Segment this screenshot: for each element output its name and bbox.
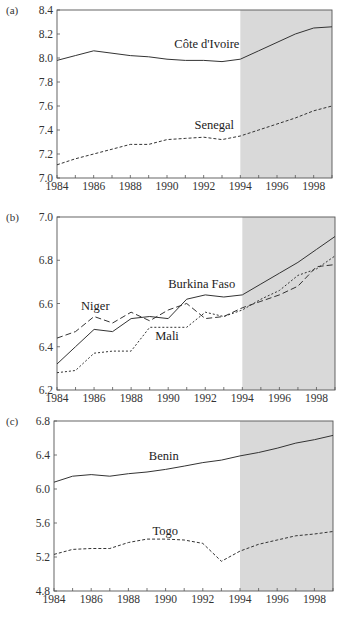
x-tick-label: 1990 [154,593,177,605]
x-tick-label: 1998 [303,593,326,605]
y-tick-label: 7.2 [39,148,54,160]
y-tick-label: 5.6 [36,517,51,529]
y-tick-label: 7.6 [39,100,54,112]
panel-label: (a) [6,4,19,17]
x-tick-label: 1996 [268,392,291,404]
y-tick-label: 6.4 [36,449,51,461]
x-tick-label: 1996 [266,593,289,605]
series-label: Niger [81,299,110,313]
shaded-region [240,421,333,591]
y-tick-label: 6.4 [39,341,54,353]
y-tick-label: 5.2 [36,551,51,563]
figure: 7.07.27.47.67.88.08.28.41984198619881990… [0,0,349,619]
x-tick-label: 1998 [302,180,325,192]
y-tick-label: 6.6 [39,298,54,310]
y-tick-label: 7.0 [39,211,54,223]
series-label: Benin [149,449,180,463]
x-tick-label: 1984 [46,392,69,404]
shaded-region [242,217,335,390]
x-tick-label: 1986 [80,593,103,605]
shaded-region [240,10,332,178]
x-tick-label: 1990 [156,180,179,192]
x-tick-label: 1988 [117,593,140,605]
panel-b: 6.26.46.66.87.01984198619881990199219941… [6,211,335,404]
x-tick-label: 1994 [229,593,252,605]
x-tick-label: 1990 [157,392,180,404]
x-tick-label: 1988 [119,180,142,192]
x-tick-label: 1986 [83,392,106,404]
y-tick-label: 8.4 [39,4,54,16]
series-label: Togo [153,524,179,538]
panel-c: 4.85.25.66.06.46.81984198619881990199219… [6,415,333,605]
x-tick-label: 1992 [194,392,217,404]
x-tick-label: 1996 [266,180,289,192]
y-tick-label: 6.8 [39,254,54,266]
y-tick-label: 8.2 [39,28,54,40]
y-tick-label: 8.0 [39,52,54,64]
x-tick-label: 1994 [231,392,254,404]
panel-label: (b) [6,211,19,224]
y-tick-label: 6.0 [36,483,51,495]
x-tick-label: 1992 [192,180,215,192]
y-tick-label: 7.4 [39,124,54,136]
x-tick-label: 1998 [305,392,328,404]
x-tick-label: 1986 [82,180,105,192]
x-tick-label: 1992 [191,593,214,605]
series-label: Burkina Faso [168,277,235,291]
panel-label: (c) [6,415,19,428]
y-tick-label: 6.8 [36,415,51,427]
series-label: Côte d'Ivoire [174,37,240,51]
x-tick-label: 1994 [229,180,252,192]
series-label: Senegal [195,118,235,132]
x-tick-label: 1984 [46,180,69,192]
panel-a: 7.07.27.47.67.88.08.28.41984198619881990… [6,4,332,192]
y-tick-label: 7.8 [39,76,54,88]
series-label: Mali [155,329,179,343]
x-tick-label: 1984 [43,593,66,605]
x-tick-label: 1988 [120,392,143,404]
